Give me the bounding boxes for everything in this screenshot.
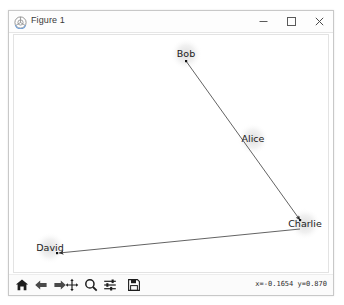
- home-icon[interactable]: [14, 277, 30, 293]
- zoom-icon[interactable]: [83, 277, 99, 293]
- network-graph[interactable]: Bob Alice Charlie David: [9, 33, 325, 274]
- navigation-toolbar: x=-0.1654 y=0.870: [9, 274, 333, 295]
- toolbar-nav-group: [14, 277, 68, 293]
- node-label-bob: Bob: [177, 48, 195, 59]
- node-label-alice: Alice: [242, 133, 265, 144]
- title-bar: Figure 1: [9, 11, 333, 33]
- close-button[interactable]: [305, 11, 333, 32]
- coordinate-readout: x=-0.1654 y=0.870: [255, 280, 327, 288]
- graph-edges: [59, 61, 300, 253]
- back-arrow-icon[interactable]: [33, 277, 49, 293]
- toolbar-tools-group: [64, 277, 118, 293]
- subplot-config-icon[interactable]: [102, 277, 118, 293]
- maximize-button[interactable]: [277, 11, 305, 32]
- graph-node-labels: Bob Alice Charlie David: [36, 48, 322, 253]
- node-marker-bob[interactable]: [185, 60, 187, 62]
- graph-nodes: [56, 60, 301, 254]
- figure-canvas[interactable]: Bob Alice Charlie David: [9, 33, 333, 274]
- node-halos: [34, 38, 321, 264]
- toolbar-save-group: [126, 277, 142, 293]
- minimize-button[interactable]: [249, 11, 277, 32]
- pan-icon[interactable]: [64, 277, 80, 293]
- save-icon[interactable]: [126, 277, 142, 293]
- edge-charlie-david[interactable]: [59, 229, 300, 253]
- node-label-charlie: Charlie: [288, 218, 322, 229]
- matplotlib-icon: [14, 15, 27, 28]
- window-title: Figure 1: [31, 15, 65, 25]
- node-label-david: David: [36, 242, 63, 253]
- figure-window: Figure 1: [8, 10, 334, 296]
